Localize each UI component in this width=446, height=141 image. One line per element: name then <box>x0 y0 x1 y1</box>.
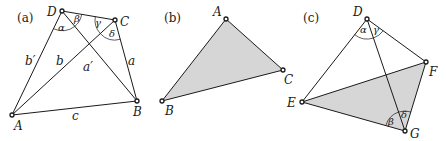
vertex-D <box>365 17 369 21</box>
panel-b: (b) A C B <box>160 5 293 118</box>
vertex-label-E: E <box>286 96 296 110</box>
angle-arc-alpha <box>355 35 374 39</box>
vertex-D <box>60 9 64 13</box>
vertex-label-G: G <box>410 127 420 141</box>
vertex-label-A: A <box>13 119 23 133</box>
panel-label-a: (a) <box>17 11 34 25</box>
edge-DC <box>62 11 115 20</box>
vertex-label-B: B <box>132 105 142 119</box>
side-label-c: c <box>72 109 79 123</box>
angle-label-alpha: α <box>58 22 65 33</box>
figure: (a) α β γ δ b′ b a′ a c D C A B (b) <box>0 0 446 141</box>
panel-label-b: (b) <box>164 11 181 25</box>
vertex-C <box>113 18 117 22</box>
triangle-ABC <box>162 19 283 101</box>
vertex-B <box>135 99 139 103</box>
angle-label-delta: δ <box>109 28 115 39</box>
side-label-a-prime: a′ <box>83 60 93 74</box>
angle-label-beta: β <box>387 116 394 127</box>
angle-label-beta: β <box>73 13 80 24</box>
angle-label-delta: δ <box>401 109 407 120</box>
panel-a: (a) α β γ δ b′ b a′ a c D C A B <box>10 5 142 133</box>
vertex-A <box>224 17 228 21</box>
vertex-label-F: F <box>428 65 438 79</box>
vertex-B <box>160 99 164 103</box>
vertex-F <box>424 60 428 64</box>
vertex-label-C: C <box>120 15 129 29</box>
vertex-label-B: B <box>164 104 174 118</box>
side-label-b: b <box>56 54 64 68</box>
angle-label-alpha: α <box>360 24 367 35</box>
panel-c: (c) α γ β δ D F E G <box>286 5 438 141</box>
vertex-label-D: D <box>352 5 363 19</box>
side-label-b-prime: b′ <box>25 54 36 68</box>
triangle-EFG <box>302 62 426 131</box>
vertex-label-C: C <box>284 73 293 87</box>
vertex-E <box>300 100 304 104</box>
side-label-a: a <box>128 54 135 68</box>
vertex-label-D: D <box>46 5 57 19</box>
angle-label-gamma: γ <box>373 24 379 35</box>
vertex-G <box>403 129 407 133</box>
edge-DA <box>12 11 62 115</box>
panel-label-c: (c) <box>303 11 319 25</box>
vertex-A <box>10 113 14 117</box>
angle-label-gamma: γ <box>95 17 101 28</box>
vertex-C <box>281 68 285 72</box>
vertex-label-A: A <box>212 5 222 19</box>
